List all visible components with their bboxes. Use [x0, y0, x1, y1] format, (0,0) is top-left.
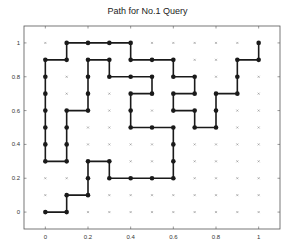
path-point-marker [128, 176, 133, 181]
x-tick-label: 1 [257, 234, 261, 240]
path-point-marker [192, 108, 197, 113]
path-point-marker [150, 176, 155, 181]
path-point-marker [235, 91, 240, 96]
path-point-marker [235, 58, 240, 63]
path-point-marker [43, 58, 48, 63]
path-point-marker [256, 41, 261, 46]
path-point-marker [171, 176, 176, 181]
path-point-marker [64, 108, 69, 113]
path-point-marker [150, 91, 155, 96]
path-point-marker [235, 74, 240, 79]
path-point-marker [150, 58, 155, 63]
path-point-marker [214, 125, 219, 130]
path-point-marker [256, 58, 261, 63]
path-point-marker [86, 159, 91, 164]
path-point-marker [43, 159, 48, 164]
x-tick-label: 0.6 [169, 234, 178, 240]
path-point-marker [107, 74, 112, 79]
path-point-marker [86, 41, 91, 46]
path-point-marker [192, 91, 197, 96]
path-point-marker [43, 91, 48, 96]
y-tick-label: 1 [17, 40, 21, 46]
path-point-marker [64, 142, 69, 147]
path-point-marker [107, 159, 112, 164]
path-point-marker [171, 91, 176, 96]
y-tick-label: 0 [17, 209, 21, 215]
path-point-marker [214, 108, 219, 113]
path-series [43, 41, 261, 215]
path-point-marker [192, 125, 197, 130]
plot-area: 00.20.40.60.8100.20.40.60.81 [0, 0, 295, 249]
path-point-marker [86, 193, 91, 198]
path-point-marker [86, 176, 91, 181]
path-point-marker [43, 210, 48, 215]
path-point-marker [43, 142, 48, 147]
path-point-marker [64, 159, 69, 164]
path-point-marker [64, 58, 69, 63]
path-point-marker [214, 91, 219, 96]
y-tick-label: 0.6 [12, 108, 21, 114]
path-point-marker [86, 91, 91, 96]
path-point-marker [43, 108, 48, 113]
path-point-marker [86, 74, 91, 79]
path-point-marker [171, 125, 176, 130]
path-point-marker [171, 159, 176, 164]
path-point-marker [86, 108, 91, 113]
path-point-marker [171, 142, 176, 147]
x-tick-label: 0 [44, 234, 48, 240]
path-point-marker [128, 108, 133, 113]
path-point-marker [192, 74, 197, 79]
axis-ticks: 00.20.40.60.8100.20.40.60.81 [12, 26, 280, 240]
path-point-marker [128, 74, 133, 79]
path-point-marker [128, 125, 133, 130]
x-tick-label: 0.2 [84, 234, 93, 240]
path-point-marker [128, 91, 133, 96]
path-point-marker [43, 74, 48, 79]
path-point-marker [171, 74, 176, 79]
path-point-marker [43, 125, 48, 130]
x-tick-label: 0.4 [126, 234, 135, 240]
path-point-marker [171, 58, 176, 63]
path-point-marker [64, 193, 69, 198]
y-tick-label: 0.2 [12, 175, 21, 181]
path-point-marker [64, 41, 69, 46]
path-point-marker [171, 108, 176, 113]
path-point-marker [64, 125, 69, 130]
path-point-marker [128, 41, 133, 46]
path-point-marker [150, 125, 155, 130]
path-point-marker [86, 58, 91, 63]
x-tick-label: 0.8 [212, 234, 221, 240]
path-point-marker [107, 41, 112, 46]
path-point-marker [150, 74, 155, 79]
path-point-marker [128, 58, 133, 63]
path-point-marker [107, 58, 112, 63]
path-point-marker [107, 176, 112, 181]
y-tick-label: 0.4 [12, 141, 21, 147]
path-point-marker [64, 210, 69, 215]
y-tick-label: 0.8 [12, 74, 21, 80]
